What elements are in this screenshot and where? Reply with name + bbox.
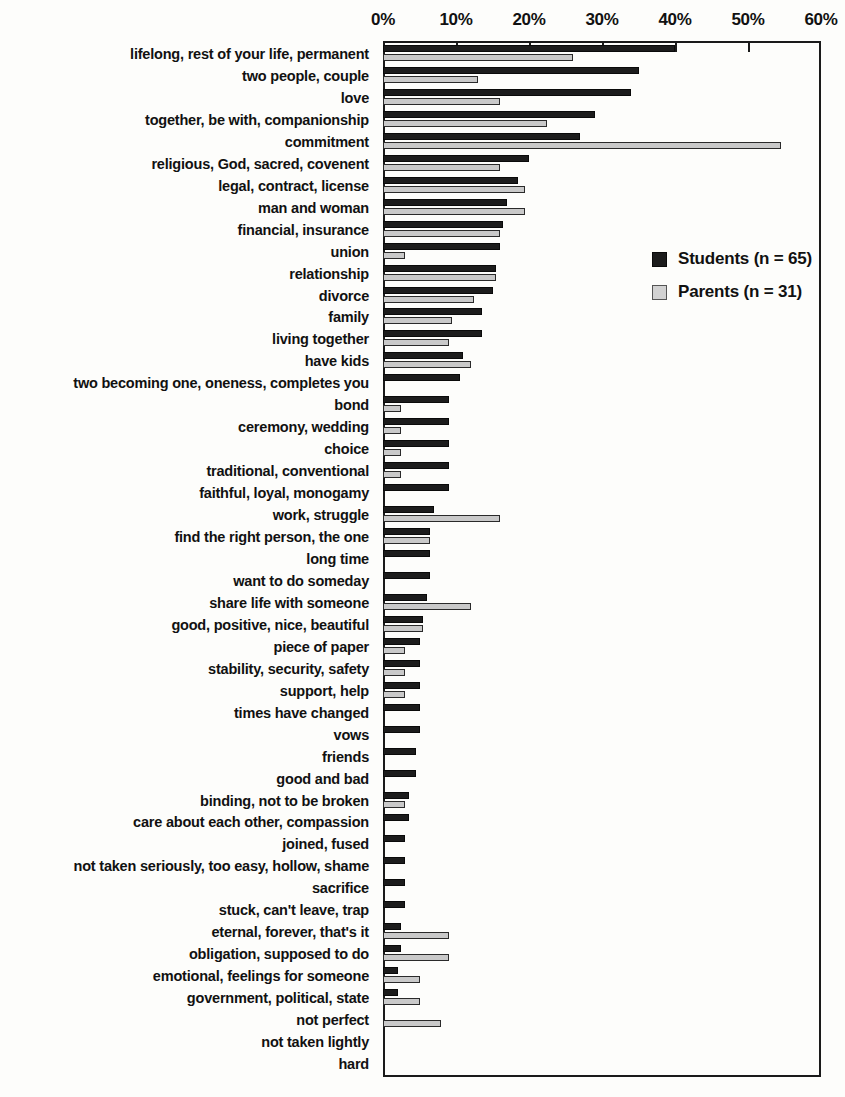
category-label: have kids	[305, 354, 369, 369]
bar-parents	[383, 801, 405, 808]
bar-parents	[383, 954, 449, 961]
bar-group	[383, 943, 821, 965]
category-label: man and woman	[258, 201, 369, 216]
legend-label: Parents (n = 31)	[678, 282, 802, 302]
category-label: piece of paper	[273, 640, 369, 655]
bar-students	[383, 726, 420, 733]
category-label: divorce	[319, 289, 369, 304]
bar-students	[383, 572, 430, 579]
bar-group	[383, 921, 821, 943]
bar-students	[383, 901, 405, 908]
bar-group	[383, 768, 821, 790]
bar-group	[383, 372, 821, 394]
bar-students	[383, 660, 420, 667]
bar-parents	[383, 603, 471, 610]
bar-students	[383, 945, 401, 952]
bar-students	[383, 879, 405, 886]
bar-group	[383, 592, 821, 614]
category-label: work, struggle	[273, 508, 369, 523]
bar-group	[383, 438, 821, 460]
category-label: stability, security, safety	[208, 662, 369, 677]
category-label: living together	[272, 332, 369, 347]
bar-group	[383, 87, 821, 109]
bar-parents	[383, 54, 573, 61]
bar-group	[383, 899, 821, 921]
bar-group	[383, 175, 821, 197]
bar-group	[383, 877, 821, 899]
bar-group	[383, 43, 821, 65]
category-label: care about each other, compassion	[133, 815, 369, 830]
category-label: friends	[322, 750, 369, 765]
category-label: financial, insurance	[238, 223, 369, 238]
category-label: vows	[334, 728, 369, 743]
x-axis-tick-labels: 0%10%20%30%40%50%60%	[383, 10, 821, 36]
bar-students	[383, 770, 416, 777]
bar-students	[383, 374, 460, 381]
bar-parents	[383, 230, 500, 237]
category-label: sacrifice	[312, 881, 369, 896]
category-label: want to do someday	[233, 574, 369, 589]
category-label: two becoming one, oneness, completes you	[73, 376, 369, 391]
bar-parents	[383, 208, 525, 215]
bar-students	[383, 638, 420, 645]
bar-rows-container	[383, 43, 821, 1075]
x-tick-label-10: 10%	[439, 10, 472, 30]
bar-group	[383, 219, 821, 241]
bar-parents	[383, 537, 430, 544]
bar-students	[383, 352, 463, 359]
bar-group	[383, 724, 821, 746]
bar-group	[383, 416, 821, 438]
bar-students	[383, 440, 449, 447]
category-label: binding, not to be broken	[200, 794, 369, 809]
bar-group	[383, 855, 821, 877]
category-label: religious, God, sacred, covenent	[151, 157, 369, 172]
bar-students	[383, 748, 416, 755]
bar-group	[383, 965, 821, 987]
bar-students	[383, 682, 420, 689]
bar-parents	[383, 296, 474, 303]
bar-parents	[383, 98, 500, 105]
bar-group	[383, 65, 821, 87]
bar-students	[383, 704, 420, 711]
bar-parents	[383, 274, 496, 281]
category-label: family	[328, 310, 369, 325]
bar-students	[383, 484, 449, 491]
bar-students	[383, 330, 482, 337]
category-label: ceremony, wedding	[238, 420, 369, 435]
bar-students	[383, 528, 430, 535]
bar-students	[383, 111, 595, 118]
legend-swatch-students	[652, 252, 667, 267]
bar-parents	[383, 932, 449, 939]
category-label: long time	[306, 552, 369, 567]
bar-parents	[383, 164, 500, 171]
horizontal-bar-chart: 0%10%20%30%40%50%60% lifelong, rest of y…	[0, 0, 845, 1097]
bar-parents	[383, 647, 405, 654]
category-label: find the right person, the one	[174, 530, 369, 545]
bar-students	[383, 506, 434, 513]
category-label: emotional, feelings for someone	[153, 969, 369, 984]
category-label: two people, couple	[242, 69, 369, 84]
bar-group	[383, 1031, 821, 1053]
bar-students	[383, 177, 518, 184]
bar-parents	[383, 76, 478, 83]
bar-group	[383, 548, 821, 570]
bar-group	[383, 746, 821, 768]
bar-group	[383, 328, 821, 350]
bar-students	[383, 67, 639, 74]
category-label: obligation, supposed to do	[189, 947, 369, 962]
bar-parents	[383, 515, 500, 522]
category-label: faithful, loyal, monogamy	[199, 486, 369, 501]
bar-students	[383, 396, 449, 403]
bar-group	[383, 833, 821, 855]
category-label: not perfect	[296, 1013, 369, 1028]
category-label: support, help	[280, 684, 369, 699]
bar-parents	[383, 142, 781, 149]
bar-students	[383, 550, 430, 557]
bar-parents	[383, 449, 401, 456]
bar-students	[383, 792, 409, 799]
bar-students	[383, 45, 675, 52]
category-label: eternal, forever, that's it	[211, 925, 369, 940]
x-tick-label-60: 60%	[804, 10, 837, 30]
bar-group	[383, 1009, 821, 1031]
bar-group	[383, 790, 821, 812]
